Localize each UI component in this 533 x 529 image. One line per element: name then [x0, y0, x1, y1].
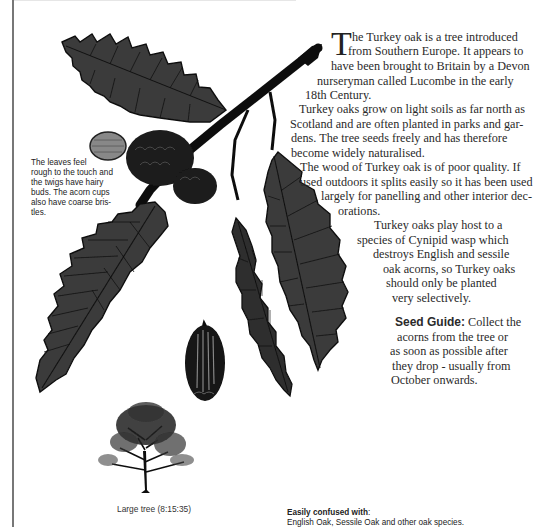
- intro-line: 18th Century.: [305, 88, 371, 103]
- side-note-line: tles.: [31, 208, 131, 218]
- seed-guide-text: Collect the: [465, 315, 521, 329]
- seed-guide-line: acorns from the tree or: [397, 330, 508, 345]
- para3-line: orations.: [338, 204, 380, 219]
- intro-line: have been brought to Britain by a Devon: [331, 59, 530, 74]
- confused-species: English Oak, Sessile Oak and other oak s…: [287, 518, 464, 528]
- para3-line: used outdoors it splits easily so it has…: [300, 175, 533, 190]
- para2-line: Scotland and are often planted in parks …: [290, 117, 523, 132]
- para3-line: The wood of Turkey oak is of poor qualit…: [300, 160, 521, 175]
- intro-line: from Southern Europe. It appears to: [348, 44, 523, 59]
- para4-line: Turkey oaks play host to a: [374, 218, 503, 233]
- para2-line: dens. The tree seeds freely and has ther…: [291, 131, 507, 146]
- acorn-icon: [185, 322, 225, 401]
- para4-line: should only be planted: [386, 276, 497, 291]
- tree-silhouette-icon: [98, 402, 194, 493]
- seed-guide-label: Seed Guide:: [395, 315, 465, 329]
- side-note-line: rough to the touch and: [31, 168, 131, 178]
- tree-caption: Large tree (8:15:35): [117, 504, 191, 514]
- para2-line: Turkey oaks grow on light soils as far n…: [299, 102, 525, 117]
- seed-guide-line: they drop - usually from: [392, 359, 510, 374]
- side-note: The leaves feel rough to the touch and t…: [31, 158, 131, 219]
- para4-line: species of Cynipid wasp which: [357, 233, 509, 248]
- confused-colon: :: [368, 508, 370, 517]
- confused-label: Easily confused with: [287, 508, 368, 517]
- para2-line: become widely naturalised.: [291, 146, 425, 161]
- side-note-line: the twigs have hairy: [31, 178, 131, 188]
- para4-line: destroys English and sessile: [373, 247, 509, 262]
- para4-line: very selectively.: [392, 291, 471, 306]
- side-note-line: also have coarse bris-: [31, 198, 131, 208]
- para3-line: largely for panelling and other interior…: [321, 189, 532, 204]
- intro-line: he Turkey oak is a tree introduced: [352, 30, 518, 45]
- seed-guide-line: as soon as possible after: [390, 344, 508, 359]
- seed-guide-line: October onwards.: [391, 373, 478, 388]
- easily-confused-with: Easily confused with: English Oak, Sessi…: [287, 508, 464, 528]
- para4-line: oak acorns, so Turkey oaks: [383, 262, 515, 277]
- side-note-line: The leaves feel: [31, 158, 131, 168]
- side-note-line: buds. The acorn cups: [31, 188, 131, 198]
- seed-guide-line: Seed Guide: Collect the: [395, 315, 521, 330]
- intro-line: nurseryman called Lucombe in the early: [317, 74, 514, 89]
